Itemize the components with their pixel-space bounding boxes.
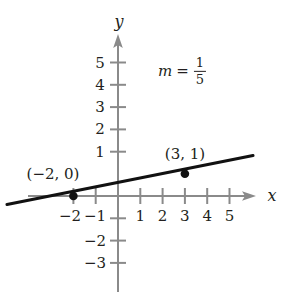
y-tick-label-3: 3: [95, 100, 105, 115]
x-tick-label-1: 1: [136, 209, 146, 224]
x-axis-label: x: [267, 188, 276, 204]
x-tick-label-4: 4: [202, 209, 212, 224]
data-point-minus2-0: [69, 192, 78, 201]
y-tick-label-minus3: −3: [84, 255, 106, 270]
x-tick-label-2: 2: [158, 209, 168, 224]
x-tick-label-minus1: −1: [84, 209, 106, 224]
y-tick-label-1: 1: [95, 144, 105, 159]
slope-variable: m: [158, 62, 172, 80]
slope-numerator: 1: [194, 56, 206, 70]
slope-equals-sign: =: [176, 62, 189, 80]
y-tick-label-2: 2: [95, 122, 105, 137]
x-tick-label-3: 3: [180, 209, 190, 224]
y-tick-label-minus2: −2: [84, 233, 106, 248]
point-label-3-1: (3, 1): [165, 147, 205, 162]
slope-denominator: 5: [194, 73, 206, 87]
point-label-minus2-0: (−2, 0): [27, 167, 80, 182]
y-tick-label-5: 5: [95, 55, 105, 70]
coordinate-plane: [0, 0, 288, 304]
x-tick-label-5: 5: [225, 209, 235, 224]
graph-figure: y x 5 4 3 2 1 −2 −3 −2 −1 1 2 3 4 5 (−2,…: [0, 0, 288, 304]
y-axis-label: y: [114, 14, 123, 30]
slope-annotation: m = 1 5: [158, 56, 206, 86]
slope-fraction: 1 5: [194, 56, 206, 86]
y-tick-label-4: 4: [95, 77, 105, 92]
data-point-3-1: [181, 169, 190, 178]
x-tick-label-minus2: −2: [59, 209, 81, 224]
